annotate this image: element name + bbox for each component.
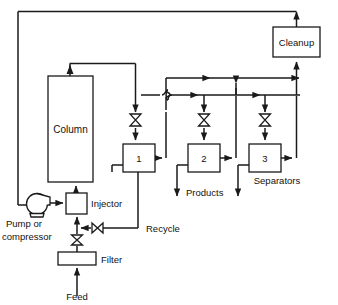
unit-column[interactable]: Column (48, 76, 93, 182)
process-flow-diagram: Column Cleanup Injector Pump or compress… (0, 0, 338, 305)
filter-label: Filter (101, 254, 122, 265)
feed-label: Feed (66, 291, 88, 302)
separator-1-label: 1 (136, 153, 141, 164)
valve-recycle[interactable] (92, 223, 103, 233)
stream-header-main (141, 90, 300, 100)
valve-separator-2[interactable] (199, 114, 210, 126)
recycle-label: Recycle (146, 223, 180, 234)
stream-products-2 (238, 165, 249, 196)
stream-sep1-bottoms (112, 165, 123, 172)
arrowhead-column-top (67, 65, 74, 74)
unit-cleanup[interactable]: Cleanup (273, 27, 320, 57)
pfd-canvas: Column Cleanup Injector Pump or compress… (0, 0, 338, 305)
valve-feed[interactable] (72, 235, 83, 245)
separator-3-label: 3 (262, 153, 267, 164)
unit-separator-3[interactable]: 3 (249, 144, 281, 172)
separators-group-label: Separators (254, 175, 301, 186)
stream-sep2-out (220, 96, 236, 158)
pump-label-line1: Pump or (6, 218, 42, 229)
stream-sep1-out (155, 112, 166, 158)
injector-label: Injector (91, 198, 122, 209)
unit-separator-2[interactable]: 2 (188, 144, 220, 172)
separator-2-label: 2 (201, 153, 206, 164)
cleanup-label: Cleanup (279, 37, 314, 48)
valve-separator-3[interactable] (260, 114, 271, 126)
products-label: Products (186, 187, 224, 198)
pump-label-line2: compressor (2, 231, 52, 242)
unit-pump[interactable] (27, 194, 51, 218)
stream-sep3-out (281, 96, 297, 158)
unit-injector[interactable] (66, 193, 87, 214)
column-label: Column (53, 124, 87, 135)
valve-separator-1[interactable] (130, 114, 141, 126)
unit-filter[interactable] (58, 252, 96, 265)
unit-separator-1[interactable]: 1 (123, 144, 155, 172)
